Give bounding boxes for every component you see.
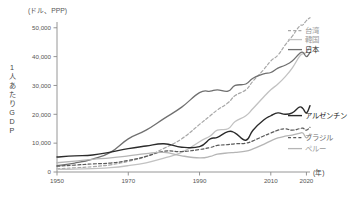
gdp-per-capita-chart: 010,00020,00030,00040,00050,000 19501970… bbox=[0, 0, 359, 219]
y-axis-label-char: P bbox=[10, 126, 15, 135]
y-axis-label-char: D bbox=[9, 117, 14, 126]
y-tick-label: 0 bbox=[48, 168, 52, 175]
y-axis-label-char: あ bbox=[9, 81, 16, 90]
series-line-台湾 bbox=[57, 18, 310, 169]
y-axis-label-char: 1 bbox=[10, 63, 14, 72]
x-tick-label: 1970 bbox=[121, 177, 135, 184]
y-axis-label-char: り bbox=[9, 99, 16, 108]
legend-label-アルゼンチン: アルゼンチン bbox=[305, 111, 347, 120]
series-line-アルゼンチン bbox=[57, 106, 310, 157]
axes-group bbox=[57, 22, 310, 172]
y-axis-label-char: た bbox=[9, 90, 16, 99]
y-tick-label: 50,000 bbox=[32, 24, 51, 31]
y-axis-label-char: G bbox=[9, 108, 15, 117]
legend-label-ブラジル: ブラジル bbox=[305, 133, 334, 142]
y-tick-label: 40,000 bbox=[32, 53, 51, 60]
x-axis-ticks: 19501970199020102020 bbox=[50, 172, 314, 184]
x-tick-label: 1950 bbox=[50, 177, 64, 184]
y-axis-label: 1人あたりGDP bbox=[9, 63, 16, 135]
series-lines bbox=[57, 18, 310, 170]
x-tick-label: 2010 bbox=[264, 177, 278, 184]
series-line-日本 bbox=[57, 52, 310, 166]
legend-label-日本: 日本 bbox=[305, 45, 320, 54]
y-tick-label: 30,000 bbox=[32, 82, 51, 89]
x-axis-label: (年) bbox=[313, 168, 325, 177]
y-tick-label: 10,000 bbox=[32, 139, 51, 146]
y-axis-label-char: 人 bbox=[9, 72, 16, 81]
legend-label-韓国: 韓国 bbox=[305, 35, 319, 44]
x-tick-label: 2020 bbox=[300, 177, 314, 184]
unit-label: (ドル、PPP) bbox=[28, 7, 67, 15]
legend-label-ペルー: ペルー bbox=[305, 144, 326, 153]
legend-label-台湾: 台湾 bbox=[305, 26, 320, 35]
y-axis-ticks: 010,00020,00030,00040,00050,000 bbox=[32, 24, 57, 175]
x-tick-label: 1990 bbox=[193, 177, 207, 184]
y-tick-label: 20,000 bbox=[32, 111, 51, 118]
chart-canvas: 010,00020,00030,00040,00050,000 19501970… bbox=[0, 0, 359, 219]
